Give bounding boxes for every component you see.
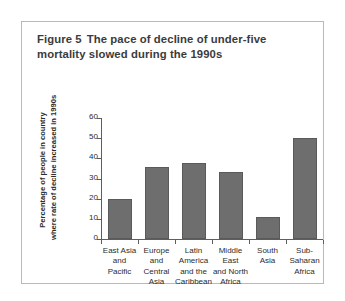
bar-5 xyxy=(256,217,280,239)
bar-6 xyxy=(293,138,317,239)
x-axis-label-line: and xyxy=(138,256,175,266)
figure-number: Figure 5 xyxy=(37,33,82,45)
y-tick-label: 50 xyxy=(89,132,98,141)
y-tick-label: 30 xyxy=(89,173,98,182)
bars-layer xyxy=(101,118,323,239)
x-tick-mark xyxy=(323,240,324,244)
x-axis-label-line: Saharan xyxy=(286,256,323,266)
x-axis-label-line: Europe xyxy=(138,246,175,256)
x-axis-label-5: SouthAsia xyxy=(249,246,286,267)
y-tick-label: 0 xyxy=(94,233,98,242)
y-tick-label: 20 xyxy=(89,193,98,202)
figure-frame: Figure 5The pace of decline of under-fiv… xyxy=(21,21,324,284)
x-axis-label-line: East xyxy=(212,256,249,266)
x-axis-label-line: and the xyxy=(175,267,212,277)
x-tick-mark xyxy=(175,240,176,244)
x-axis-label-1: East AsiaandPacific xyxy=(101,246,138,277)
y-tick-label: 40 xyxy=(89,152,98,161)
x-axis-label-line: Latin xyxy=(175,246,212,256)
chart-plot-area: Percentage of people in country where ra… xyxy=(73,100,323,298)
x-axis-label-line: South xyxy=(249,246,286,256)
bar-1 xyxy=(108,199,132,239)
y-tick-label: 10 xyxy=(89,213,98,222)
x-axis-label-line: Asia xyxy=(138,277,175,287)
x-axis-label-line: Asia xyxy=(249,256,286,266)
x-axis-label-line: Sub- xyxy=(286,246,323,256)
bar-3 xyxy=(182,163,206,239)
x-tick-mark xyxy=(286,240,287,244)
bar-2 xyxy=(145,167,169,239)
x-axis-label-line: Central xyxy=(138,267,175,277)
y-axis-label-line-1: Percentage of people in country xyxy=(37,100,48,240)
x-axis-label-4: MiddleEastand NorthAfrica xyxy=(212,246,249,288)
x-axis-label-line: Pacific xyxy=(101,267,138,277)
x-tick-mark xyxy=(212,240,213,244)
x-axis-labels: East AsiaandPacificEuropeandCentralAsiaL… xyxy=(101,246,323,301)
x-tick-mark xyxy=(101,240,102,244)
axis-box: 0102030405060 East AsiaandPacificEuropea… xyxy=(101,118,323,240)
x-axis-label-line: Caribbean xyxy=(175,277,212,287)
figure-title: Figure 5The pace of decline of under-fiv… xyxy=(37,32,312,61)
bar-4 xyxy=(219,172,243,239)
y-tick-label: 60 xyxy=(89,112,98,121)
x-tick-mark xyxy=(249,240,250,244)
x-axis-label-line: Africa xyxy=(212,277,249,287)
y-axis-label: Percentage of people in country where ra… xyxy=(37,100,63,240)
x-axis-label-line: East Asia xyxy=(101,246,138,256)
x-axis-label-line: Africa xyxy=(286,267,323,277)
x-axis-label-line: America xyxy=(175,256,212,266)
x-axis-label-line: Middle xyxy=(212,246,249,256)
x-axis-label-line: and xyxy=(101,256,138,266)
x-axis-label-line: and North xyxy=(212,267,249,277)
x-axis-label-3: LatinAmericaand theCaribbean xyxy=(175,246,212,288)
x-axis-label-2: EuropeandCentralAsia xyxy=(138,246,175,288)
x-tick-mark xyxy=(138,240,139,244)
x-axis-label-6: Sub-SaharanAfrica xyxy=(286,246,323,277)
y-axis-label-line-2: where rate of decline increased in 1990s xyxy=(48,100,59,240)
